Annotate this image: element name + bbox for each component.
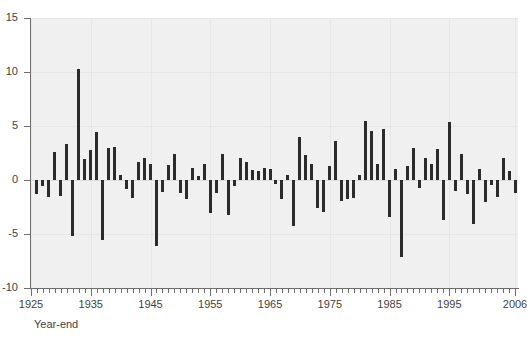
bar [41,180,44,186]
x-tick-mark-major [210,289,211,296]
bar [502,158,505,180]
y-tick-label: 15 [6,12,18,23]
bar [304,155,307,180]
x-tick-mark-minor [240,289,241,293]
x-tick-mark-minor [443,289,444,293]
x-tick-mark-minor [37,289,38,293]
x-tick-mark-minor [109,289,110,293]
x-tick-mark-minor [264,289,265,293]
y-tick-mark [24,72,31,73]
x-tick-mark-major [390,289,391,296]
bar [280,180,283,199]
x-tick-mark-minor [186,289,187,293]
x-tick-mark-minor [276,289,277,293]
bar [89,150,92,180]
x-tick-mark-minor [168,289,169,293]
bar [454,180,457,191]
x-tick-mark-minor [396,289,397,293]
x-tick-mark-minor [467,289,468,293]
x-tick-mark-minor [67,289,68,293]
x-tick-mark-minor [360,289,361,293]
vertical-gridline [210,18,211,288]
y-tick-label: 5 [12,120,18,131]
x-tick-mark-minor [509,289,510,293]
bar [430,164,433,180]
bar [167,165,170,180]
x-tick-mark-minor [180,289,181,293]
bar [149,164,152,180]
bar [179,180,182,193]
bar [53,152,56,180]
bar [137,162,140,180]
x-tick-mark-major [515,289,516,296]
bar [382,129,385,180]
x-tick-mark-minor [216,289,217,293]
x-tick-label: 1945 [138,298,162,310]
y-tick-mark [24,234,31,235]
bar [460,154,463,180]
y-tick-label: -10 [2,282,18,293]
x-tick-mark-minor [503,289,504,293]
x-tick-label: 1965 [258,298,282,310]
x-tick-mark-minor [55,289,56,293]
horizontal-gridline [31,18,518,19]
x-tick-mark-major [91,289,92,296]
x-tick-mark-minor [145,289,146,293]
bar [77,69,80,180]
bar [376,164,379,180]
x-tick-label: 1935 [79,298,103,310]
y-tick-label: -5 [8,228,18,239]
x-tick-label: 1995 [437,298,461,310]
x-tick-mark-minor [378,289,379,293]
bar [191,168,194,180]
bar [119,175,122,180]
x-tick-mark-minor [198,289,199,293]
bar [418,180,421,188]
bar [436,149,439,180]
x-tick-mark-major [330,289,331,296]
bar [514,180,517,193]
bar [478,169,481,180]
bar [274,180,277,184]
bar [406,166,409,180]
bar [65,144,68,180]
vertical-gridline [151,18,152,288]
bar [209,180,212,213]
bar [245,162,248,180]
bar [143,158,146,180]
x-tick-mark-minor [491,289,492,293]
x-tick-mark-minor [294,289,295,293]
bar [215,180,218,193]
bar [364,121,367,180]
x-tick-mark-minor [162,289,163,293]
y-tick-mark [24,126,31,127]
bar [340,180,343,201]
x-tick-mark-minor [127,289,128,293]
horizontal-gridline [31,126,518,127]
x-tick-label: 1955 [198,298,222,310]
x-tick-mark-major [151,289,152,296]
bar [400,180,403,257]
bar [298,137,301,180]
bar [269,169,272,180]
bar [125,180,128,189]
x-tick-mark-minor [306,289,307,293]
bar [233,180,236,186]
bar [496,180,499,197]
x-tick-mark-minor [425,289,426,293]
vertical-gridline [270,18,271,288]
bar [71,180,74,236]
bar [173,154,176,180]
bar [466,180,469,194]
x-tick-mark-minor [252,289,253,293]
bar [508,171,511,180]
x-tick-mark-minor [192,289,193,293]
x-tick-mark-minor [407,289,408,293]
x-tick-mark-minor [437,289,438,293]
x-axis-title: Year-end [34,318,78,330]
bar [334,141,337,180]
x-tick-mark-minor [139,289,140,293]
y-tick-label: 0 [12,174,18,185]
x-tick-mark-minor [342,289,343,293]
x-tick-mark-major [449,289,450,296]
